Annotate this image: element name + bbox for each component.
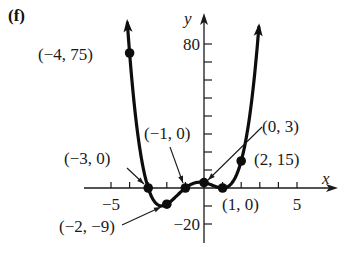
data-point [236,156,246,166]
data-point [143,183,153,193]
curve-end-arrows [124,19,263,36]
data-point [162,199,172,209]
leader-arrow-icon [178,176,183,183]
data-point [181,183,191,193]
y-axis-label: y [182,9,192,28]
point-label-neg4-75: (−4, 75) [38,45,93,64]
point-label-neg2-neg9: (−2, −9) [59,217,115,236]
data-point [199,178,209,188]
x-tick-label: 5 [293,195,302,214]
data-point [218,183,228,193]
polynomial-graph: (f) −5580−20 x y (−4, 75) (−3, 0) (−2, −… [0,0,349,253]
leader-arrow-icon [154,207,161,212]
panel-label: (f) [8,6,25,25]
point-label-0-3: (0, 3) [262,117,299,136]
x-axis-label: x [321,169,330,188]
y-tick-label: −20 [173,215,200,234]
data-point [125,48,135,58]
y-tick-label: 80 [183,35,200,54]
point-label-neg3-0: (−3, 0) [64,149,110,168]
point-label-1-0: (1, 0) [222,195,259,214]
point-label-2-15: (2, 15) [254,150,299,169]
x-tick-label: −5 [102,195,120,214]
point-label-neg1-0: (−1, 0) [144,124,190,143]
